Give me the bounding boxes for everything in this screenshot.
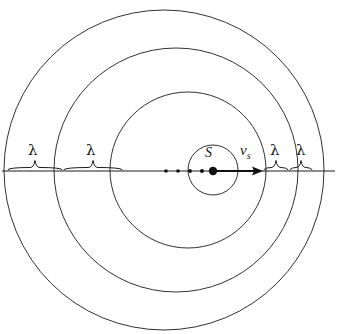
diagram-canvas bbox=[0, 0, 337, 334]
lambda-right-inner bbox=[264, 161, 288, 170]
lambda-label-right-inner: λ bbox=[270, 143, 280, 158]
past-source-dot-3 bbox=[188, 169, 192, 173]
doppler-effect-figure: S vs λ λ λ λ bbox=[0, 0, 337, 334]
lambda-label-left-inner: λ bbox=[86, 143, 96, 158]
velocity-subscript: s bbox=[247, 150, 251, 161]
outermost-wavefront bbox=[4, 10, 324, 330]
source-label: S bbox=[205, 146, 212, 160]
past-source-dot-1 bbox=[164, 169, 168, 173]
past-source-dot-2 bbox=[176, 169, 180, 173]
lambda-left-inner bbox=[64, 161, 122, 170]
velocity-label: vs bbox=[240, 143, 251, 161]
past-source-dot-4 bbox=[200, 169, 204, 173]
velocity-arrow bbox=[214, 166, 263, 175]
wavelength-brace-group bbox=[8, 161, 312, 170]
lambda-label-right-outer: λ bbox=[296, 143, 306, 158]
lambda-label-left-outer: λ bbox=[28, 143, 38, 158]
third-wavefront bbox=[54, 48, 298, 292]
velocity-symbol: v bbox=[240, 142, 247, 158]
wavefront-circles bbox=[4, 10, 324, 330]
lambda-right-outer bbox=[290, 161, 312, 170]
